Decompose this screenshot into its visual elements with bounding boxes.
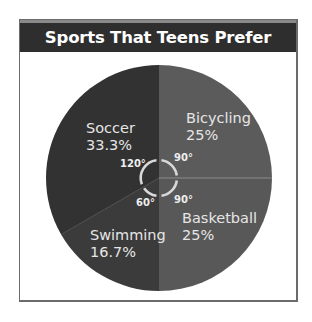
label-swimming: Swimming 16.7% (90, 227, 166, 261)
pie-chart (0, 0, 312, 322)
slice-name: Bicycling (186, 110, 251, 127)
label-basketball: Basketball 25% (182, 210, 257, 244)
slice-name: Swimming (90, 227, 166, 244)
angle-label-basketball: 90° (174, 194, 193, 205)
label-bicycling: Bicycling 25% (186, 110, 251, 144)
angle-label-swimming: 60° (136, 197, 155, 208)
slice-percent: 33.3% (86, 137, 135, 154)
slice-name: Basketball (182, 210, 257, 227)
slice-percent: 16.7% (90, 244, 166, 261)
slice-percent: 25% (182, 227, 257, 244)
angle-label-bicycling: 90° (174, 152, 193, 163)
angle-label-soccer: 120° (120, 158, 146, 169)
slice-name: Soccer (86, 120, 135, 137)
label-soccer: Soccer 33.3% (86, 120, 135, 154)
slice-percent: 25% (186, 127, 251, 144)
